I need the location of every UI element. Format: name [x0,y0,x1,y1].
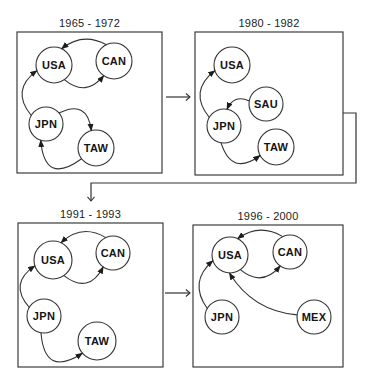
node-taw-label-1: TAW [84,142,109,154]
diagram-root: USACANJPNTAWUSASAUJPNTAWUSACANJPNTAWUSAC… [17,32,356,367]
node-jpn-label-3: JPN [33,310,55,322]
edge-jpn-to-usa-2 [200,71,215,118]
edge-can-to-usa-4 [238,230,283,239]
node-usa-label-4: USA [218,249,242,261]
panel-title-1: 1965 - 1972 [17,17,162,30]
panel-4: USACANJPNMEX [193,225,343,367]
flow-diagram: USACANJPNTAWUSASAUJPNTAWUSACANJPNTAWUSAC… [0,0,371,381]
edge-usa-to-can-1 [64,76,103,88]
edge-jpn-to-taw-3 [41,333,82,362]
edge-jpn-to-usa-1 [22,71,37,116]
panel-title-2: 1980 - 1982 [195,17,343,30]
node-taw-label-2: TAW [264,141,289,153]
node-jpn-label-2: JPN [213,120,235,132]
node-can-label-4: CAN [278,246,303,258]
node-usa-label-1: USA [42,59,66,71]
panel-title-3: 1991 - 1993 [18,208,163,221]
edge-usa-to-can-4 [240,266,280,278]
edge-taw-to-jpn-1 [41,140,82,169]
edge-mex-to-usa-4 [229,273,297,315]
panel-1: USACANJPNTAW [17,32,162,173]
edge-jpn-to-taw-1 [59,109,91,131]
edge-jpn-to-usa-3 [20,266,35,308]
edge-can-to-usa-3 [61,232,106,243]
node-jpn-label-4: JPN [211,311,233,323]
panel-3: USACANJPNTAW [18,223,163,367]
panel-title-4: 1996 - 2000 [193,210,343,223]
edge-jpn-to-taw-2 [221,143,260,164]
edge-can-to-usa-1 [62,39,107,49]
node-usa-label-2: USA [220,59,244,71]
node-jpn-label-1: JPN [35,118,57,130]
node-usa-label-3: USA [41,254,65,266]
node-taw-label-3: TAW [85,335,110,347]
edge-jpn-to-usa-4 [199,261,213,309]
node-can-label-3: CAN [101,247,126,259]
node-mex-label-4: MEX [302,311,327,323]
node-sau-label-2: SAU [254,98,278,110]
node-can-label-1: CAN [102,55,127,67]
panel-2: USASAUJPNTAW [195,32,343,175]
edge-sau-to-jpn-2 [227,99,249,110]
diagram-canvas: USACANJPNTAWUSASAUJPNTAWUSACANJPNTAWUSAC… [0,0,371,381]
